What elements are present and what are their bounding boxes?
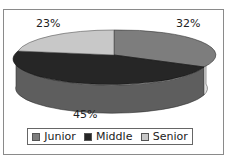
legend-label-middle: Middle	[96, 130, 132, 143]
legend-swatch-junior	[32, 133, 40, 141]
legend-label-junior: Junior	[44, 130, 76, 143]
legend-item-junior: Junior	[32, 130, 76, 143]
junior-data-label: 32%	[176, 17, 200, 30]
legend-item-middle: Middle	[84, 130, 132, 143]
legend-item-senior: Senior	[141, 130, 188, 143]
legend-label-senior: Senior	[153, 130, 188, 143]
senior-slice	[18, 30, 114, 55]
chart-legend: Junior Middle Senior	[27, 128, 193, 145]
legend-swatch-middle	[84, 133, 92, 141]
legend-swatch-senior	[141, 133, 149, 141]
senior-data-label: 23%	[36, 17, 60, 30]
middle-data-label: 45%	[73, 108, 97, 121]
